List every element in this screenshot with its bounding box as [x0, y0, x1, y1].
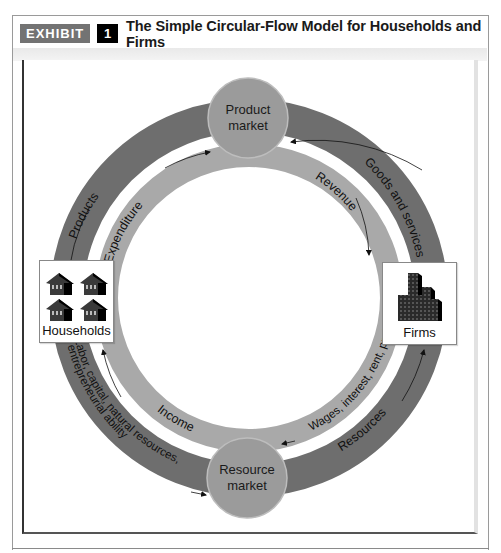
- product-market-line1: Product: [208, 102, 288, 118]
- firms-label: Firms: [383, 325, 456, 340]
- resource-market-line2: market: [207, 478, 287, 494]
- resource-market-label: Resource market: [207, 462, 287, 494]
- firms-node: Firms: [382, 262, 457, 345]
- resource-market-line1: Resource: [207, 462, 287, 478]
- product-market-label: Product market: [208, 102, 288, 134]
- houses-icon: [40, 265, 115, 327]
- product-market-line2: market: [208, 118, 288, 134]
- buildings-icon: [383, 265, 458, 327]
- households-label: Households: [40, 323, 113, 338]
- households-node: Households: [39, 260, 114, 343]
- labor-arrow: [191, 492, 206, 495]
